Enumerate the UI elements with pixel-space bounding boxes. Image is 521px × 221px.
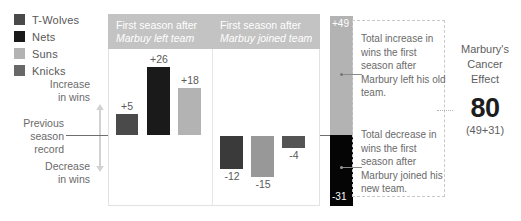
legend-swatch-twolves [14, 14, 25, 25]
total-increase-value: +49 [332, 18, 349, 29]
previous-season-record-label: Previous season record [2, 117, 64, 156]
leader-line-top [342, 74, 362, 75]
bar-value-suns-negative: -15 [247, 178, 279, 190]
up-down-arrow-icon [94, 104, 106, 172]
decrease-in-wins-label: Decrease in wins [22, 160, 90, 186]
summary-title-line1: Marbury's [452, 42, 518, 57]
summary-formula: (49+31) [452, 124, 518, 136]
leader-dot-bottom [340, 166, 343, 169]
baseline-line-1: Previous [2, 117, 64, 130]
direction-arrows [94, 104, 106, 172]
panel-header-right-line1: First season after [220, 19, 320, 32]
decrease-line-2: in wins [22, 173, 90, 186]
legend-swatch-suns [14, 48, 25, 59]
bar-value-knicks-negative: -4 [278, 149, 310, 161]
summary-leader-line [437, 110, 453, 112]
panel-divider [212, 49, 213, 206]
baseline-line-2: season [2, 130, 64, 143]
legend-item-suns: Suns [14, 46, 110, 61]
legend-label-knicks: Knicks [32, 65, 66, 77]
increase-in-wins-label: Increase in wins [22, 78, 90, 104]
panel-header-left-line2: Marbuy left team [116, 32, 216, 45]
callout-text-decrease: Total decrease in wins the first season … [361, 128, 447, 196]
bar-suns-positive [178, 88, 201, 135]
bar-value-twolves-positive: +5 [112, 100, 142, 112]
bar-value-nets-positive: +26 [143, 53, 175, 65]
bar-nets-positive [147, 67, 170, 135]
panel-header-left-line1: First season after [116, 19, 216, 32]
bar-knicks-negative [282, 136, 305, 148]
bar-suns-negative [251, 136, 274, 177]
baseline-line-3: record [2, 143, 64, 156]
decrease-line-1: Decrease [22, 160, 90, 173]
legend: T-Wolves Nets Suns Knicks [14, 12, 110, 80]
callout-text-increase: Total increase in wins the first season … [361, 32, 447, 100]
legend-label-nets: Nets [32, 31, 55, 43]
bar-twolves-positive [116, 114, 138, 135]
summary-title-line2: Cancer [452, 57, 518, 72]
legend-label-suns: Suns [32, 48, 58, 60]
total-decrease-value: -31 [332, 191, 346, 202]
legend-label-twolves: T-Wolves [32, 14, 79, 26]
legend-swatch-knicks [14, 65, 25, 76]
chart-figure: T-Wolves Nets Suns Knicks Increase in wi… [0, 0, 521, 221]
bar-nets-negative [220, 136, 243, 169]
leader-line-bottom [342, 167, 362, 168]
panel-header-right-line2: Marbuy joined team [220, 32, 320, 45]
summary-number: 80 [452, 93, 518, 123]
panel-header-left: First season after Marbuy left team [116, 19, 216, 45]
legend-item-twolves: T-Wolves [14, 12, 110, 27]
legend-item-knicks: Knicks [14, 63, 110, 78]
bar-value-nets-negative: -12 [216, 170, 248, 182]
leader-dot-top [340, 73, 343, 76]
summary-title-line3: Effect [452, 72, 518, 87]
increase-line-1: Increase [22, 78, 90, 91]
panel-header-band: First season after Marbuy left team Firs… [108, 14, 320, 49]
increase-line-2: in wins [22, 91, 90, 104]
legend-item-nets: Nets [14, 29, 110, 44]
bar-value-suns-positive: +18 [174, 74, 206, 86]
legend-swatch-nets [14, 31, 25, 42]
summary-block: Marbury's Cancer Effect 80 (49+31) [452, 42, 518, 136]
panel-header-right: First season after Marbuy joined team [220, 19, 320, 45]
